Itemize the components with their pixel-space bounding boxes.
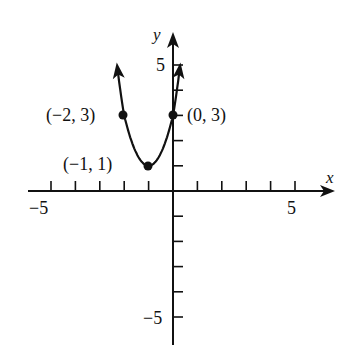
x-tick-label-neg5: −5 [29, 198, 48, 218]
x-tick-label-5: 5 [287, 198, 296, 218]
y-axis-label: y [151, 25, 161, 44]
y-axis [167, 32, 179, 345]
point-label-0-3: (0, 3) [187, 105, 226, 126]
point-label-neg1-1: (−1, 1) [63, 154, 112, 175]
x-axis-label: x [325, 168, 334, 187]
y-tick-label-5: 5 [156, 55, 165, 75]
y-tick-label-neg5: −5 [143, 308, 162, 328]
point-label-neg2-3: (−2, 3) [46, 105, 95, 126]
x-axis [28, 185, 335, 197]
parabola-graph: x y −5 5 5 −5 (−2, 3) (−1, 1) (0, 3) [0, 0, 353, 355]
parabola-curve [118, 73, 179, 166]
point-neg2-3 [119, 111, 128, 120]
point-0-3 [169, 111, 178, 120]
point-neg1-1 [144, 162, 153, 171]
